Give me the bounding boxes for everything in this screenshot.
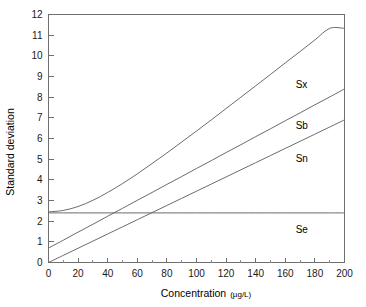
y-tick-label: 3 bbox=[37, 195, 43, 206]
curve-label-sn: Sn bbox=[296, 153, 308, 164]
y-tick-label: 11 bbox=[32, 30, 43, 41]
y-tick-label: 0 bbox=[37, 257, 43, 268]
x-tick-label: 160 bbox=[277, 268, 294, 279]
x-axis-title-units: (µg/L) bbox=[230, 290, 251, 299]
y-axis-title: Standard deviation bbox=[4, 108, 16, 196]
x-tick-label: 80 bbox=[161, 268, 173, 279]
x-tick-label: 60 bbox=[132, 268, 144, 279]
y-tick-label: 7 bbox=[37, 112, 43, 123]
y-tick-label: 8 bbox=[37, 92, 43, 103]
svg-text:Concentration(µg/L): Concentration(µg/L) bbox=[161, 287, 252, 299]
y-tick-label: 10 bbox=[31, 50, 43, 61]
chart-figure: 020406080100120140160180200 012345678910… bbox=[0, 0, 366, 307]
y-tick-label: 4 bbox=[37, 174, 43, 185]
y-axis-tick-labels: 0123456789101112 bbox=[31, 9, 43, 268]
y-tick-label: 12 bbox=[31, 9, 43, 20]
x-axis-title-main: Concentration bbox=[161, 287, 227, 299]
y-tick-label: 5 bbox=[37, 154, 43, 165]
curve-label-sb: Sb bbox=[296, 120, 309, 131]
x-tick-label: 140 bbox=[247, 268, 264, 279]
y-tick-label: 6 bbox=[37, 133, 43, 144]
y-axis-title-label: Standard deviation bbox=[4, 108, 16, 196]
y-tick-label: 2 bbox=[37, 216, 43, 227]
y-axis-major-ticks bbox=[49, 15, 54, 263]
x-tick-label: 180 bbox=[307, 268, 324, 279]
x-tick-label: 200 bbox=[336, 268, 353, 279]
y-tick-label: 9 bbox=[37, 71, 43, 82]
x-tick-label: 20 bbox=[73, 268, 85, 279]
y-tick-label: 1 bbox=[37, 236, 43, 247]
x-tick-label: 40 bbox=[102, 268, 114, 279]
x-axis-tick-labels: 020406080100120140160180200 bbox=[46, 268, 354, 279]
x-tick-label: 0 bbox=[46, 268, 52, 279]
curve-sn bbox=[49, 120, 345, 263]
x-tick-label: 120 bbox=[218, 268, 235, 279]
standard-deviation-vs-concentration-chart: 020406080100120140160180200 012345678910… bbox=[0, 0, 366, 307]
curve-labels: SxSbSnSe bbox=[296, 79, 309, 235]
curve-label-se: Se bbox=[296, 224, 309, 235]
x-tick-label: 100 bbox=[188, 268, 205, 279]
x-axis-title: Concentration(µg/L) bbox=[161, 287, 252, 299]
curve-label-sx: Sx bbox=[296, 79, 308, 90]
